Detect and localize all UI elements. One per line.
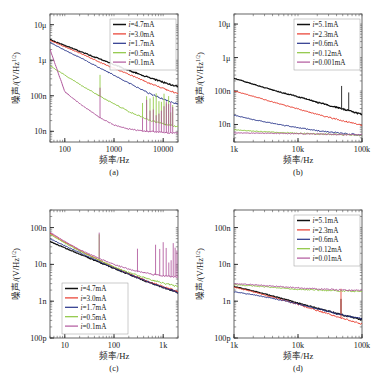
y-tick-label: 1n <box>38 297 46 306</box>
y-tick-label: 1n <box>222 297 230 306</box>
legend-entry-label: i=5.1mA <box>313 21 340 29</box>
legend-entry-label: i=0.6mA <box>313 236 340 244</box>
legend-entry-label: i=0.5mA <box>129 50 156 58</box>
x-axis-label: 频率/Hz <box>283 154 314 165</box>
legend: i=5.1mAi=2.3mAi=0.6mAi=0.12mAi=0.001mA <box>294 19 360 70</box>
y-tick-label: 100n <box>214 224 230 233</box>
legend-entry-label: i=4.7mA <box>129 21 156 29</box>
y-tick-label: 10n <box>34 260 46 269</box>
legend-entry-label: i=2.3mA <box>313 31 340 39</box>
y-tick-label: 1μ <box>222 54 231 63</box>
y-axis-label: 噪声/(V/Hz1/2) <box>194 52 205 104</box>
legend-entry-label: i=0.12mA <box>313 246 343 254</box>
legend-entry-label: i=0.12mA <box>313 50 343 58</box>
y-axis-label: 噪声/(V/Hz1/2) <box>194 248 205 300</box>
y-tick-label: 10μ <box>34 21 47 30</box>
legend-entry-label: i=3.0mA <box>81 295 108 303</box>
y-tick-label: 100n <box>30 224 46 233</box>
y-tick-label: 10n <box>218 120 230 129</box>
legend-entry-label: i=3.0mA <box>129 31 156 39</box>
y-tick-label: 10μ <box>218 20 231 29</box>
x-tick-label: 1k <box>230 145 239 154</box>
x-tick-label: 10 <box>61 341 69 350</box>
y-tick-label: 100p <box>214 334 230 343</box>
y-axis-label: 噪声/(V/Hz1/2) <box>10 52 21 104</box>
legend-entry-label: i=2.3mA <box>313 227 340 235</box>
x-tick-label: 1k <box>230 341 239 350</box>
panel-c: 101001k100n10n1n100p频率/Hz噪声/(V/Hz1/2)i=4… <box>0 196 186 392</box>
legend: i=5.1mAi=2.3mAi=0.6mAi=0.12mAi=0.01mA <box>294 215 360 266</box>
panel-caption: (b) <box>293 168 303 177</box>
y-tick-label: 10n <box>218 260 230 269</box>
panel-caption: (d) <box>293 364 303 373</box>
x-axis-label: 频率/Hz <box>99 154 130 165</box>
panel-a: 10010001000010μ1μ100n10n频率/Hz噪声/(V/Hz1/2… <box>0 0 186 196</box>
legend-entry-label: i=0.1mA <box>129 59 156 67</box>
legend-entry-label: i=0.001mA <box>313 59 347 67</box>
panel-d: 1k10k100k100n10n1n100p频率/Hz噪声/(V/Hz1/2)i… <box>186 196 373 392</box>
legend-entry-label: i=0.5mA <box>81 314 108 322</box>
x-axis-label: 频率/Hz <box>283 350 314 361</box>
x-tick-label: 10k <box>292 145 305 154</box>
figure-panel-grid: 10010001000010μ1μ100n10n频率/Hz噪声/(V/Hz1/2… <box>0 0 373 392</box>
x-tick-label: 100k <box>354 341 371 350</box>
y-tick-label: 100p <box>30 334 46 343</box>
x-tick-label: 10k <box>292 341 305 350</box>
legend-entry-label: i=1.7mA <box>81 304 108 312</box>
legend-entry-label: i=1.7mA <box>129 40 156 48</box>
x-tick-label: 10000 <box>153 145 173 154</box>
panel-caption: (c) <box>109 364 119 373</box>
y-axis-label: 噪声/(V/Hz1/2) <box>10 248 21 300</box>
x-tick-label: 100 <box>59 145 71 154</box>
y-tick-label: 100n <box>30 92 46 101</box>
x-tick-label: 1k <box>159 341 168 350</box>
y-tick-label: 10n <box>34 127 46 136</box>
y-tick-label: 100n <box>214 87 230 96</box>
x-tick-label: 100k <box>354 145 371 154</box>
panel-caption: (a) <box>109 168 119 177</box>
legend-entry-label: i=5.1mA <box>313 217 340 225</box>
x-tick-label: 1000 <box>106 145 122 154</box>
x-tick-label: 100 <box>108 341 120 350</box>
legend-entry-label: i=0.1mA <box>81 323 108 331</box>
panel-b: 1k10k100k10μ1μ100n10n频率/Hz噪声/(V/Hz1/2)i=… <box>186 0 373 196</box>
y-tick-label: 1μ <box>38 56 47 65</box>
x-axis-label: 频率/Hz <box>99 350 130 361</box>
legend-entry-label: i=4.7mA <box>81 285 108 293</box>
legend-entry-label: i=0.01mA <box>313 255 343 263</box>
legend: i=4.7mAi=3.0mAi=1.7mAi=0.5mAi=0.1mA <box>62 283 128 334</box>
legend-entry-label: i=0.6mA <box>313 40 340 48</box>
legend: i=4.7mAi=3.0mAi=1.7mAi=0.5mAi=0.1mA <box>110 19 176 70</box>
